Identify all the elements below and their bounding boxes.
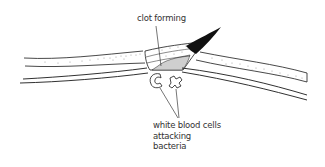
white-blood-cells-label: white blood cells attacking bacteria (153, 120, 221, 152)
skin-dots-left (45, 54, 141, 64)
dermis-lines-right (182, 68, 307, 100)
label-leader-lines (156, 26, 179, 118)
white-blood-cell-star (169, 76, 182, 88)
clot-forming-label: clot forming (137, 13, 186, 24)
white-blood-cell-c (150, 74, 162, 88)
wbc-label-line-3: bacteria (153, 141, 221, 152)
wbc-label-line-2: attacking (153, 131, 221, 142)
scab-wedge (186, 27, 221, 54)
wbc-label-line-1: white blood cells (153, 120, 221, 131)
wbc-leader-line-2 (176, 89, 179, 118)
skin-layer-left (24, 51, 145, 67)
dermis-lines-left (20, 68, 148, 83)
skin-dots-right (212, 58, 303, 79)
wbc-leader-line-1 (160, 88, 178, 118)
